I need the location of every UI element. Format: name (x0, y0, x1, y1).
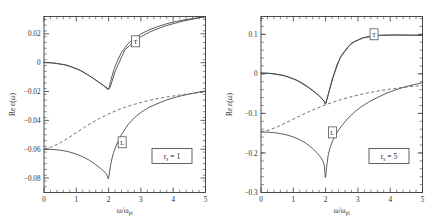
y-axis-title: Re ε(ω) (225, 92, 234, 115)
annotation-rest: = 5 (385, 152, 397, 161)
y-axis-title: Re ε(ω) (8, 92, 17, 115)
y-tick-label: −0.1 (244, 110, 257, 118)
panel-left: 0123450.020−0.02−0.04−0.06−0.08ω/ωplRe ε… (0, 0, 218, 221)
curve-t-companion (261, 35, 423, 104)
x-tick-label: 5 (204, 196, 208, 204)
x-axis-title: ω/ωpl (334, 206, 350, 216)
plot-frame (261, 17, 423, 193)
x-axis-title: ω/ωpl (117, 206, 133, 216)
y-tick-label: −0.3 (244, 189, 257, 197)
curve-label-t: T (372, 31, 376, 38)
plot-right: 0123450.10−0.1−0.2−0.3ω/ωplRe ε(ω)TLrs =… (217, 0, 435, 221)
y-tick-label: 0 (254, 70, 258, 78)
curve-t-companion (44, 17, 206, 90)
y-tick-label: −0.2 (244, 150, 257, 158)
y-tick-label: 0.02 (28, 30, 41, 38)
y-tick-label: −0.08 (24, 175, 41, 183)
x-tick-label: 1 (292, 196, 296, 204)
x-tick-label: 2 (107, 196, 111, 204)
figure-root: 0123450.020−0.02−0.04−0.06−0.08ω/ωplRe ε… (0, 0, 435, 221)
y-tick-label: 0 (37, 59, 41, 67)
annotation-text: rs = 5 (381, 152, 398, 162)
x-tick-label: 3 (356, 196, 360, 204)
panel-right: 0123450.10−0.1−0.2−0.3ω/ωplRe ε(ω)TLrs =… (217, 0, 435, 221)
y-tick-label: 0.1 (249, 31, 258, 39)
x-axis-title-sub: pl (129, 210, 134, 216)
y-tick-label: −0.02 (24, 88, 41, 96)
x-tick-label: 2 (324, 196, 328, 204)
curve-l (44, 91, 206, 179)
curve-label-l: L (330, 129, 334, 136)
curve-t (44, 17, 206, 90)
curve-label-l: L (120, 139, 124, 146)
x-tick-label: 0 (42, 196, 46, 204)
curve-t (261, 35, 423, 104)
x-tick-label: 0 (259, 196, 263, 204)
curve-label-t: T (133, 38, 137, 45)
annotation-rest: = 1 (168, 152, 180, 161)
x-tick-label: 4 (388, 196, 392, 204)
x-axis-title-sub: pl (346, 210, 351, 216)
x-tick-label: 3 (139, 196, 143, 204)
x-tick-label: 5 (421, 196, 425, 204)
x-tick-label: 4 (171, 196, 175, 204)
y-tick-label: −0.06 (24, 146, 41, 154)
x-tick-label: 1 (75, 196, 79, 204)
annotation-text: rs = 1 (164, 152, 181, 162)
plot-frame (44, 17, 206, 193)
plot-left: 0123450.020−0.02−0.04−0.06−0.08ω/ωplRe ε… (0, 0, 218, 221)
y-tick-label: −0.04 (24, 117, 41, 125)
